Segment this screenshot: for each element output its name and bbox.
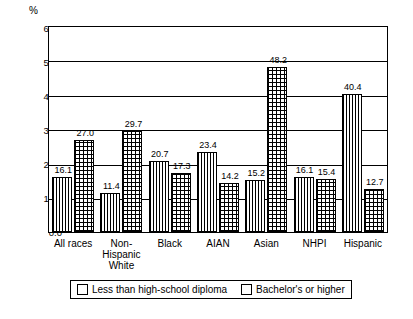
bar-value-label: 20.7 xyxy=(143,150,177,159)
legend-swatch-icon-series-2 xyxy=(241,284,252,295)
bar-series-1-6: 16.1 xyxy=(294,177,314,232)
bar-series-1-4: 23.4 xyxy=(197,152,217,232)
legend-item-less-than-hs: Less than high-school diploma xyxy=(77,284,227,295)
bar-value-label: 23.4 xyxy=(191,141,225,150)
bar-series-1-2: 11.4 xyxy=(100,193,120,232)
bar-value-label: 27.0 xyxy=(68,129,102,138)
bar-series-2-7: 12.7 xyxy=(364,189,384,232)
bar-series-1-5: 15.2 xyxy=(245,180,265,232)
bar-value-label: 17.3 xyxy=(165,162,199,171)
bar-series-1-1: 16.1 xyxy=(52,177,72,232)
legend-label-series-2: Bachelor's or higher xyxy=(256,284,345,295)
bar-series-2-3: 17.3 xyxy=(171,173,191,232)
bar-series-2-5: 48.2 xyxy=(267,67,287,232)
category-label-7: Hispanic xyxy=(328,238,398,249)
bars-layer: 16.111.420.723.415.216.140.427.029.717.3… xyxy=(49,27,387,232)
bar-series-2-6: 15.4 xyxy=(316,179,336,232)
bar-value-label: 12.7 xyxy=(358,178,392,187)
bar-chart: % 0.0 10.0 20.0 30.0 40.0 50.0 60.0 16.1… xyxy=(0,0,413,319)
bar-value-label: 40.4 xyxy=(336,83,370,92)
legend-item-bachelors-or-higher: Bachelor's or higher xyxy=(241,284,345,295)
bar-value-label: 15.4 xyxy=(310,168,344,177)
legend-swatch-icon-series-1 xyxy=(77,284,88,295)
bar-value-label: 14.2 xyxy=(213,172,247,181)
bar-value-label: 29.7 xyxy=(116,120,150,129)
bar-series-2-1: 27.0 xyxy=(74,140,94,232)
legend-label-series-1: Less than high-school diploma xyxy=(92,284,227,295)
plot-area: 16.111.420.723.415.216.140.427.029.717.3… xyxy=(48,26,388,233)
bar-series-1-3: 20.7 xyxy=(149,161,169,232)
y-axis-unit-label: % xyxy=(29,6,38,16)
bar-series-1-7: 40.4 xyxy=(342,94,362,232)
legend: Less than high-school diploma Bachelor's… xyxy=(70,280,352,299)
bar-value-label: 48.2 xyxy=(261,56,295,65)
bar-series-2-4: 14.2 xyxy=(219,183,239,232)
bar-series-2-2: 29.7 xyxy=(122,131,142,232)
